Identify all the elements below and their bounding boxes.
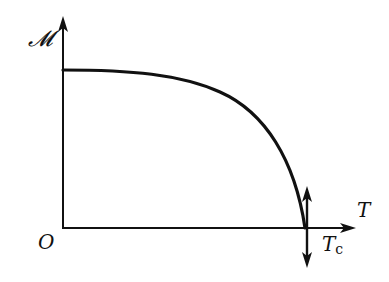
critical-temperature-subscript: c xyxy=(335,241,343,257)
x-axis-label-temperature: T xyxy=(357,200,370,220)
critical-temperature-main: T xyxy=(322,232,335,256)
critical-temperature-label: Tc xyxy=(322,234,343,256)
y-axis-label-magnetization: 𝓜 xyxy=(28,28,53,50)
magnetization-curve xyxy=(63,70,305,228)
origin-label: O xyxy=(38,232,54,252)
